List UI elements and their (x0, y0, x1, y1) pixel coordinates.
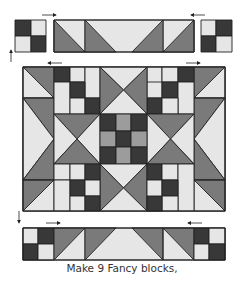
quilt-diagram (0, 0, 244, 284)
bottom-strip (23, 228, 225, 260)
top-center-flying-geese-strip (54, 20, 194, 52)
top-left-four-patch (15, 20, 46, 52)
caption: Make 9 Fancy blocks, (0, 262, 244, 274)
top-right-four-patch (201, 20, 232, 52)
center-block (23, 67, 225, 211)
